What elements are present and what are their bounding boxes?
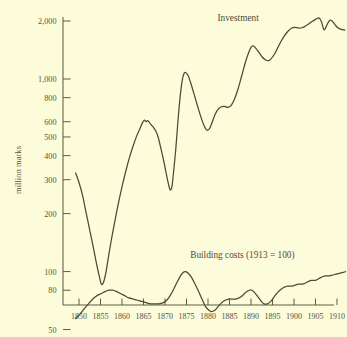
investment-label: Investment: [217, 13, 259, 23]
x-axis-tick-label: 1885: [222, 312, 238, 321]
x-axis-tick-label: 1870: [157, 312, 173, 321]
x-axis-tick-label: 1880: [200, 312, 216, 321]
x-axis-tick-label: 1875: [179, 312, 195, 321]
y-axis-title-label: million marks: [13, 145, 23, 194]
x-axis-tick-label: 1900: [286, 312, 302, 321]
y-axis-tick-label: 200: [44, 210, 56, 219]
x-axis-tick-label: 1895: [265, 312, 281, 321]
x-axis-tick-label: 1910: [329, 312, 345, 321]
x-axis-tick-label: 1860: [114, 312, 130, 321]
building-costs-label: Building costs (1913 = 100): [190, 250, 294, 261]
x-axis-tick-label: 1905: [308, 312, 324, 321]
y-axis-tick-label: 500: [44, 133, 56, 142]
y-axis-tick-label: 80: [48, 286, 56, 295]
y-axis-title: million marks: [13, 145, 23, 194]
x-axis-tick-label: 1890: [243, 312, 259, 321]
x-axis-tick-label: 1855: [93, 312, 109, 321]
investment-building-costs-chart: 2,0001,0008006005004003002001008050 1850…: [0, 0, 347, 337]
y-axis-tick-label: 400: [44, 152, 56, 161]
y-axis-tick-label: 300: [44, 176, 56, 185]
y-axis-tick-label: 600: [44, 118, 56, 127]
y-axis-tick-label: 2,000: [38, 17, 56, 26]
y-axis-tick-label: 1,000: [38, 75, 56, 84]
y-axis-tick-label: 50: [48, 326, 56, 335]
x-axis-tick-label: 1865: [136, 312, 152, 321]
y-axis-tick-label: 100: [44, 268, 56, 277]
chart-container: 2,0001,0008006005004003002001008050 1850…: [0, 0, 347, 337]
y-axis-tick-label: 800: [44, 94, 56, 103]
